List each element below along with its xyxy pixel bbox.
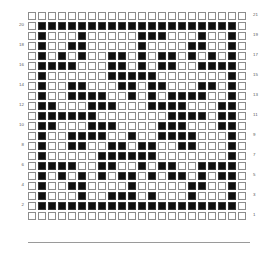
grid-cell[interactable]: [207, 101, 217, 111]
grid-cell[interactable]: [137, 111, 147, 121]
grid-cell[interactable]: [97, 151, 107, 161]
grid-cell[interactable]: [67, 111, 77, 121]
grid-cell[interactable]: [87, 191, 97, 201]
grid-cell[interactable]: [37, 51, 47, 61]
grid-cell[interactable]: [87, 81, 97, 91]
grid-cell[interactable]: [157, 111, 167, 121]
grid-cell[interactable]: [87, 91, 97, 101]
grid-cell[interactable]: [147, 211, 157, 221]
grid-cell[interactable]: [37, 101, 47, 111]
grid-cell[interactable]: [227, 171, 237, 181]
grid-cell[interactable]: [117, 71, 127, 81]
grid-cell[interactable]: [137, 101, 147, 111]
grid-cell[interactable]: [177, 81, 187, 91]
grid-cell[interactable]: [57, 41, 67, 51]
grid-cell[interactable]: [187, 111, 197, 121]
grid-cell[interactable]: [87, 51, 97, 61]
grid-cell[interactable]: [237, 171, 247, 181]
grid-cell[interactable]: [27, 121, 37, 131]
grid-cell[interactable]: [37, 171, 47, 181]
grid-cell[interactable]: [147, 121, 157, 131]
grid-cell[interactable]: [157, 71, 167, 81]
grid-cell[interactable]: [47, 81, 57, 91]
grid-cell[interactable]: [37, 131, 47, 141]
grid-cell[interactable]: [77, 161, 87, 171]
grid-cell[interactable]: [97, 201, 107, 211]
grid-cell[interactable]: [37, 151, 47, 161]
grid-cell[interactable]: [137, 31, 147, 41]
grid-cell[interactable]: [207, 211, 217, 221]
grid-cell[interactable]: [107, 181, 117, 191]
grid-cell[interactable]: [67, 161, 77, 171]
grid-cell[interactable]: [117, 51, 127, 61]
grid-cell[interactable]: [37, 111, 47, 121]
grid-cell[interactable]: [77, 181, 87, 191]
grid-cell[interactable]: [227, 81, 237, 91]
grid-cell[interactable]: [147, 81, 157, 91]
grid-cell[interactable]: [107, 121, 117, 131]
grid-cell[interactable]: [27, 161, 37, 171]
grid-cell[interactable]: [97, 71, 107, 81]
grid-cell[interactable]: [157, 101, 167, 111]
grid-cell[interactable]: [47, 141, 57, 151]
grid-cell[interactable]: [57, 101, 67, 111]
grid-cell[interactable]: [227, 161, 237, 171]
grid-cell[interactable]: [197, 81, 207, 91]
grid-cell[interactable]: [187, 31, 197, 41]
grid-cell[interactable]: [217, 151, 227, 161]
grid-cell[interactable]: [37, 161, 47, 171]
grid-cell[interactable]: [97, 101, 107, 111]
grid-cell[interactable]: [57, 111, 67, 121]
grid-cell[interactable]: [197, 131, 207, 141]
grid-cell[interactable]: [67, 91, 77, 101]
grid-cell[interactable]: [47, 61, 57, 71]
grid-cell[interactable]: [57, 171, 67, 181]
grid-cell[interactable]: [187, 61, 197, 71]
grid-cell[interactable]: [217, 171, 227, 181]
pattern-grid[interactable]: [27, 11, 247, 221]
grid-cell[interactable]: [87, 201, 97, 211]
grid-cell[interactable]: [147, 51, 157, 61]
grid-cell[interactable]: [137, 121, 147, 131]
grid-cell[interactable]: [157, 131, 167, 141]
grid-cell[interactable]: [117, 61, 127, 71]
grid-cell[interactable]: [227, 201, 237, 211]
grid-cell[interactable]: [87, 151, 97, 161]
grid-cell[interactable]: [107, 151, 117, 161]
grid-cell[interactable]: [37, 41, 47, 51]
grid-cell[interactable]: [27, 11, 37, 21]
grid-cell[interactable]: [117, 201, 127, 211]
grid-cell[interactable]: [237, 71, 247, 81]
grid-cell[interactable]: [77, 191, 87, 201]
grid-cell[interactable]: [127, 141, 137, 151]
grid-cell[interactable]: [187, 121, 197, 131]
grid-cell[interactable]: [147, 41, 157, 51]
grid-cell[interactable]: [47, 161, 57, 171]
grid-cell[interactable]: [87, 141, 97, 151]
grid-cell[interactable]: [97, 91, 107, 101]
grid-cell[interactable]: [217, 101, 227, 111]
grid-cell[interactable]: [137, 61, 147, 71]
grid-cell[interactable]: [177, 61, 187, 71]
grid-cell[interactable]: [127, 171, 137, 181]
grid-cell[interactable]: [87, 31, 97, 41]
grid-cell[interactable]: [77, 31, 87, 41]
grid-cell[interactable]: [57, 191, 67, 201]
grid-cell[interactable]: [77, 11, 87, 21]
grid-cell[interactable]: [107, 101, 117, 111]
grid-cell[interactable]: [147, 201, 157, 211]
grid-cell[interactable]: [27, 81, 37, 91]
grid-cell[interactable]: [47, 131, 57, 141]
grid-cell[interactable]: [97, 161, 107, 171]
grid-cell[interactable]: [167, 61, 177, 71]
grid-cell[interactable]: [137, 181, 147, 191]
grid-cell[interactable]: [127, 21, 137, 31]
grid-cell[interactable]: [157, 51, 167, 61]
grid-cell[interactable]: [187, 171, 197, 181]
grid-cell[interactable]: [77, 21, 87, 31]
grid-cell[interactable]: [47, 211, 57, 221]
grid-cell[interactable]: [127, 201, 137, 211]
grid-cell[interactable]: [217, 161, 227, 171]
grid-cell[interactable]: [67, 81, 77, 91]
grid-cell[interactable]: [127, 81, 137, 91]
